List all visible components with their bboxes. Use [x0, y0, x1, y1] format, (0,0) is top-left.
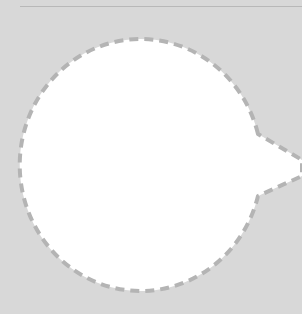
- speech-bubble-placeholder: [0, 0, 302, 314]
- speech-bubble-shape: [20, 39, 302, 291]
